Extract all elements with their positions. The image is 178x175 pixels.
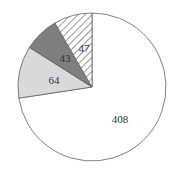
- slice-label-64: 64: [49, 74, 61, 86]
- pie-slices: [18, 13, 166, 161]
- slice-label-43: 43: [60, 52, 72, 64]
- pie-chart: 408 64 43 47: [0, 0, 178, 175]
- slice-label-408: 408: [112, 113, 129, 125]
- slice-label-47: 47: [79, 42, 91, 54]
